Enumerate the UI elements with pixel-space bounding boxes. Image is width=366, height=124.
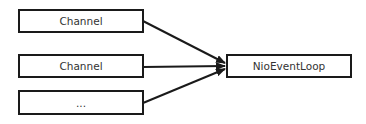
arrow-more-to-loop	[143, 69, 225, 103]
channel-node-1: Channel	[18, 9, 144, 33]
ellipsis-node: ...	[18, 90, 144, 115]
nioeventloop-node-label: NioEventLoop	[253, 60, 325, 72]
ellipsis-node-label: ...	[76, 97, 86, 109]
channel-node-2: Channel	[18, 54, 144, 78]
nioeventloop-node: NioEventLoop	[226, 54, 352, 78]
channel-node-2-label: Channel	[59, 60, 102, 72]
arrow-channel1-to-loop	[143, 21, 225, 63]
arrow-channel2-to-loop	[143, 66, 225, 67]
channel-node-1-label: Channel	[59, 15, 102, 27]
